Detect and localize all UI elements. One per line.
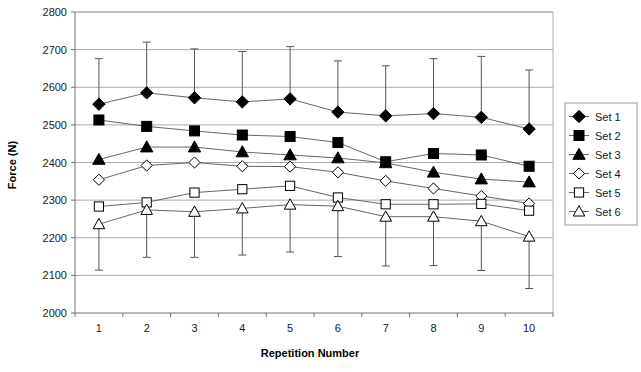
y-tick-label: 2500 <box>43 119 67 131</box>
data-point-marker <box>94 115 104 125</box>
data-point-marker <box>190 126 200 136</box>
y-tick-label: 2300 <box>43 194 67 206</box>
y-tick-label: 2200 <box>43 232 67 244</box>
data-point-marker <box>285 132 295 142</box>
x-tick-label: 2 <box>144 322 150 334</box>
data-point-marker <box>574 131 584 141</box>
legend[interactable]: Set 1Set 2Set 3Set 4Set 5Set 6 <box>565 103 637 225</box>
legend-label-set-5[interactable]: Set 5 <box>595 187 621 199</box>
data-point-marker <box>190 188 199 197</box>
y-tick-label: 2600 <box>43 81 67 93</box>
data-point-marker <box>381 200 390 209</box>
x-tick-label: 1 <box>96 322 102 334</box>
data-point-marker <box>476 150 486 160</box>
y-tick-label: 2400 <box>43 157 67 169</box>
y-tick-label: 2000 <box>43 307 67 319</box>
x-tick-label: 7 <box>383 322 389 334</box>
data-point-marker <box>142 121 152 131</box>
data-point-marker <box>429 200 438 209</box>
x-tick-label: 4 <box>239 322 245 334</box>
x-tick-label: 5 <box>287 322 293 334</box>
x-tick-label: 9 <box>478 322 484 334</box>
legend-label-set-6[interactable]: Set 6 <box>595 206 621 218</box>
y-tick-label: 2700 <box>43 44 67 56</box>
y-tick-label: 2800 <box>43 6 67 18</box>
force-vs-repetition-chart: 200021002200230024002500260027002800 123… <box>0 0 641 372</box>
x-tick-label: 8 <box>430 322 436 334</box>
legend-label-set-4[interactable]: Set 4 <box>595 168 621 180</box>
x-tick-label: 3 <box>191 322 197 334</box>
x-tick-label: 10 <box>523 322 535 334</box>
legend-label-set-1[interactable]: Set 1 <box>595 111 621 123</box>
data-point-marker <box>524 161 534 171</box>
data-point-marker <box>286 181 295 190</box>
legend-label-set-2[interactable]: Set 2 <box>595 130 621 142</box>
chart-page: 200021002200230024002500260027002800 123… <box>0 0 641 372</box>
data-point-marker <box>477 199 486 208</box>
legend-label-set-3[interactable]: Set 3 <box>595 149 621 161</box>
y-tick-label: 2100 <box>43 269 67 281</box>
x-axis-title: Repetition Number <box>261 347 360 359</box>
y-axis-title: Force (N) <box>6 141 18 190</box>
data-point-marker <box>525 206 534 215</box>
x-tick-label: 6 <box>335 322 341 334</box>
data-point-marker <box>333 138 343 148</box>
data-point-marker <box>238 185 247 194</box>
data-point-marker <box>574 188 583 197</box>
chart-background <box>0 0 641 372</box>
data-point-marker <box>237 130 247 140</box>
data-point-marker <box>429 148 439 158</box>
data-point-marker <box>94 202 103 211</box>
